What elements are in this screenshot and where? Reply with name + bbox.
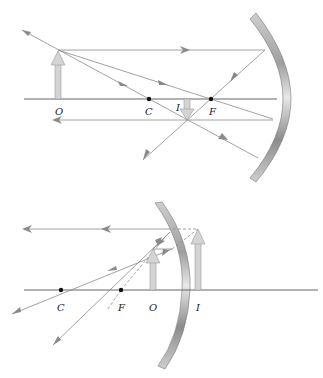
label-focal: F <box>208 106 217 117</box>
ray-arrowhead <box>118 81 128 86</box>
label-center: C <box>57 302 65 313</box>
concave-mirror-figure: O C I F <box>22 13 291 182</box>
label-object: O <box>149 302 157 313</box>
ray-arrowhead <box>158 80 168 85</box>
ray-arrowhead <box>53 336 61 345</box>
ray-arrowhead <box>107 266 117 271</box>
label-center: C <box>145 106 153 117</box>
focal-point <box>119 288 123 292</box>
ray-diagrams: O C I F <box>0 0 323 378</box>
object-arrow <box>51 51 65 99</box>
image-arrow <box>191 229 205 290</box>
focal-point <box>209 97 213 101</box>
center-of-curvature-point <box>59 288 63 292</box>
ray-arrowhead <box>12 307 21 314</box>
label-image: I <box>195 302 201 313</box>
label-image: I <box>175 102 181 113</box>
ray-arrowhead <box>22 30 31 36</box>
curved-mirror <box>155 202 190 369</box>
second-mirror-figure: C F O I <box>12 202 318 369</box>
label-object: O <box>55 106 63 117</box>
ray-arrowhead <box>230 72 238 82</box>
label-focal: F <box>117 302 126 313</box>
ray-arrowhead <box>218 133 228 140</box>
center-of-curvature-point <box>147 97 151 101</box>
ray-arrowhead <box>162 249 170 256</box>
